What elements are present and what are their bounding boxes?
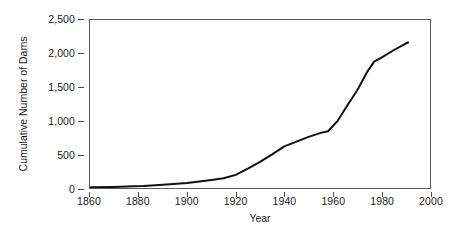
x-tick-mark — [89, 192, 90, 197]
x-axis-ticks: 18601880190019201940196019802000 — [0, 192, 456, 212]
x-tick-mark — [236, 192, 237, 197]
chart-screenshot: Cumulative Number of Dams 05001,0001,500… — [0, 0, 456, 241]
y-tick-label: 2,500 — [48, 13, 75, 25]
series-polyline — [90, 43, 408, 188]
x-tick-mark — [333, 192, 334, 197]
x-tick-mark — [187, 192, 188, 197]
y-tick-label: 500 — [57, 149, 75, 161]
y-tick-mark — [78, 53, 84, 54]
y-tick-mark — [78, 189, 84, 190]
x-tick-mark — [382, 192, 383, 197]
line-series — [90, 20, 430, 188]
y-tick-mark — [78, 19, 84, 20]
y-tick-mark — [78, 87, 84, 88]
y-tick-label: 1,500 — [48, 81, 75, 93]
y-tick-label: 2,000 — [48, 47, 75, 59]
y-tick-label: 1,000 — [48, 115, 75, 127]
x-tick-mark — [284, 192, 285, 197]
y-tick-mark — [78, 121, 84, 122]
x-tick-mark — [138, 192, 139, 197]
x-tick-mark — [431, 192, 432, 197]
plot-area — [89, 19, 431, 189]
y-tick-mark — [78, 155, 84, 156]
x-axis-title: Year — [89, 212, 431, 224]
